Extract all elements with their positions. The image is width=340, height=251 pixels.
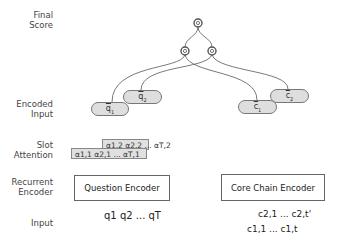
score-node-left — [181, 47, 189, 55]
score-node-top — [194, 19, 202, 27]
encoded-q1-pill: q1 — [91, 102, 129, 116]
c2-subscript: 2 — [290, 96, 293, 102]
c1-subscript: 1 — [258, 107, 261, 113]
q2-subscript: 2 — [143, 97, 146, 103]
core-chain-input-1: c1,1 ... c1,t — [247, 224, 298, 234]
encoded-c1-pill: c1 — [238, 100, 277, 114]
score-node-right — [208, 47, 216, 55]
core-chain-encoder-box: Core Chain Encoder — [221, 174, 325, 201]
q1-subscript: 1 — [111, 109, 114, 115]
encoded-c2-pill: c2 — [270, 89, 309, 103]
encoded-q2-pill: q2 — [123, 90, 162, 104]
core-chain-input-2: c2,1 ... c2,t' — [258, 209, 311, 219]
slot-attention-front: α1,1 α2,1 ... αT,1 — [71, 148, 147, 159]
question-input-tokens: q1 q2 ... qT — [104, 210, 161, 221]
question-encoder-box: Question Encoder — [74, 175, 170, 201]
